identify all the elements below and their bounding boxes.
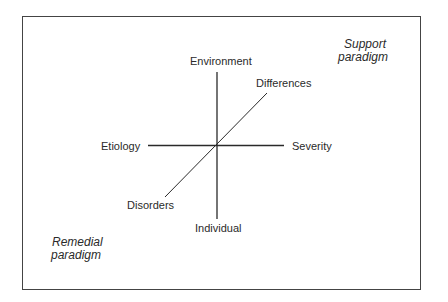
remedial-paradigm-line2: paradigm <box>51 249 101 262</box>
support-paradigm-line2: paradigm <box>338 51 386 64</box>
label-disorders: Disorders <box>127 199 174 212</box>
label-differences: Differences <box>256 77 311 90</box>
label-severity: Severity <box>292 140 332 153</box>
label-individual: Individual <box>195 222 241 235</box>
label-etiology: Etiology <box>101 140 140 153</box>
label-environment: Environment <box>190 55 252 68</box>
